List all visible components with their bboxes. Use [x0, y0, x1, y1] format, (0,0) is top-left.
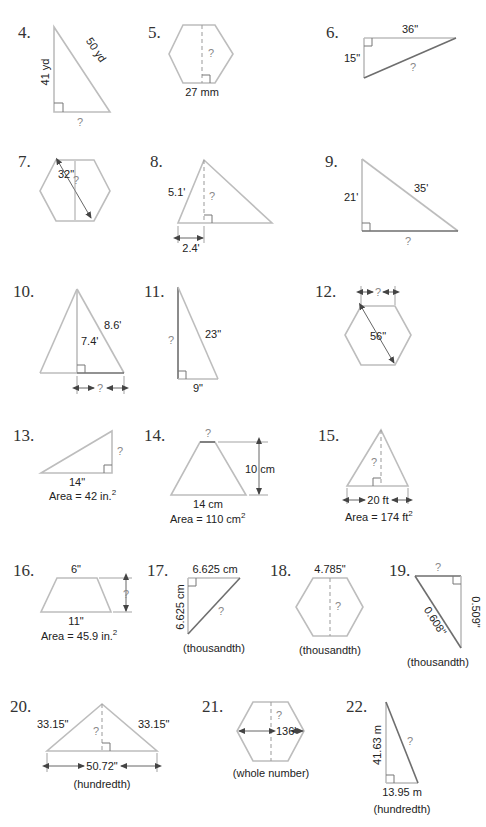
top-leg-label: 6.625 cm	[192, 563, 237, 575]
unknown-label: ?	[123, 588, 129, 600]
hypotenuse-label: 23"	[205, 328, 221, 340]
rounding-note: (hundredth)	[74, 778, 131, 790]
hypotenuse-label: 0.608"	[422, 604, 449, 637]
unknown-label: ?	[97, 382, 103, 394]
right-angle-mark	[453, 576, 461, 584]
height-label: 10 cm	[245, 463, 275, 475]
problem-number: 20.	[10, 697, 31, 716]
problem-5: 5. ? 27 mm	[148, 23, 233, 98]
base-label: 13.95 m	[382, 786, 422, 798]
unknown-label: ?	[208, 47, 214, 59]
problem-19: 19. ? 0.608" 0.509" (thousandth)	[389, 561, 482, 668]
rounding-note: (whole number)	[233, 767, 309, 779]
top-base-label: 6"	[71, 563, 81, 575]
area-label: Area = 42 in.2	[49, 488, 117, 502]
problem-number: 17.	[147, 561, 168, 580]
problem-10: 10. 8.6' 7.4' ?	[13, 282, 124, 394]
right-angle-mark	[362, 223, 370, 231]
leg-label: 0.509"	[470, 596, 482, 628]
hypotenuse	[415, 576, 461, 648]
rounding-note: (thousandth)	[407, 656, 469, 668]
right-angle-mark	[102, 743, 110, 751]
trapezoid	[171, 442, 246, 495]
problem-number: 16.	[13, 561, 34, 580]
side-label: 27 mm	[185, 86, 219, 98]
problem-15: 15. ? 20 ft Area = 174 ft2	[318, 426, 413, 523]
right-triangle	[41, 431, 112, 473]
unknown-label: ?	[93, 725, 99, 737]
unknown-label: ?	[371, 456, 377, 468]
problem-number: 7.	[18, 152, 31, 171]
problem-number: 10.	[13, 282, 34, 301]
problem-number: 19.	[389, 561, 410, 580]
problem-number: 8.	[150, 152, 163, 171]
leg-label: 9"	[193, 382, 203, 394]
leg-label: 41.63 m	[371, 725, 383, 765]
unknown-label: ?	[218, 605, 224, 617]
diagonal-label: 32"	[58, 168, 74, 180]
leg-label: 41 yd	[39, 59, 51, 86]
left-side-label: 33.15"	[37, 718, 69, 730]
unknown-label: ?	[335, 600, 341, 612]
base-segment-label: 2.4'	[182, 242, 199, 254]
base-label: 14 cm	[193, 498, 223, 510]
problem-16: 16. 6" ? 11" Area = 45.9 in.2	[13, 561, 132, 642]
problem-11: 11. ? 23" 9"	[144, 282, 221, 394]
problem-20: 20. 33.15" 33.15" ? 50.72" (hundredth)	[10, 697, 170, 790]
right-angle-mark	[364, 38, 372, 46]
unknown-label: ?	[276, 709, 282, 721]
height-label: 7.4'	[81, 335, 98, 347]
base-label: 50.72"	[86, 760, 118, 772]
side-leg-label: 6.625 cm	[174, 584, 186, 629]
problem-number: 15.	[318, 426, 339, 445]
problem-number: 22.	[346, 697, 367, 716]
right-angle-mark	[178, 371, 186, 379]
problem-13: 13. ? 14" Area = 42 in.2	[13, 426, 123, 502]
problem-9: 9. 21' 35' ?	[325, 152, 458, 247]
problem-4: 4. 41 yd 50 yd ?	[18, 23, 110, 128]
problem-number: 6.	[326, 23, 339, 42]
right-angle-mark	[188, 578, 196, 586]
hypotenuse-label: 35'	[414, 182, 428, 194]
right-angle-mark	[373, 478, 381, 486]
unknown-label: ?	[375, 286, 381, 298]
area-label: Area = 45.9 in.2	[41, 628, 118, 642]
base-label: 14"	[69, 476, 85, 488]
problem-number: 4.	[18, 23, 31, 42]
problem-17: 17. 6.625 cm 6.625 cm ? (thousandth)	[147, 561, 245, 654]
diagonal-label: 56"	[370, 330, 386, 342]
right-triangle	[54, 27, 110, 112]
unknown-label: ?	[410, 61, 416, 73]
problem-number: 18.	[270, 561, 291, 580]
problem-21: 21. ? 136' (whole number)	[202, 697, 309, 779]
hypotenuse-label: 50 yd	[84, 35, 109, 64]
trapezoid	[41, 578, 111, 612]
problem-number: 12.	[315, 282, 336, 301]
area-label: Area = 110 cm2	[170, 511, 246, 525]
side-label: 4.785"	[314, 563, 346, 575]
unknown-label: ?	[117, 445, 123, 457]
rounding-note: (thousandth)	[183, 642, 245, 654]
unknown-label: ?	[435, 561, 441, 573]
leg-label: 36"	[402, 23, 418, 35]
right-angle-mark	[202, 75, 210, 83]
side-label: 8.6'	[104, 319, 121, 331]
side-label: 5.1'	[168, 186, 185, 198]
hexagon	[169, 25, 233, 83]
hypotenuse	[386, 702, 418, 783]
problem-8: 8. 5.1' ? 2.4'	[150, 152, 272, 254]
problem-22: 22. 41.63 m ? 13.95 m (hundredth)	[346, 697, 430, 815]
right-angle-mark	[77, 365, 85, 373]
diagonal-label: 136'	[276, 725, 296, 737]
problem-number: 21.	[202, 697, 223, 716]
problem-number: 14.	[144, 426, 165, 445]
unknown-label: ?	[209, 190, 215, 202]
leg-label: 15"	[344, 52, 360, 64]
leg-label: 21'	[344, 191, 358, 203]
unknown-label: ?	[407, 735, 413, 747]
rounding-note: (thousandth)	[299, 644, 361, 656]
problem-14: 14. ? 10 cm 14 cm Area = 110 cm2	[144, 426, 275, 525]
right-angle-mark	[54, 103, 63, 112]
worksheet: 4. 41 yd 50 yd ? 5. ? 27 mm 6. 36" 15" ?…	[0, 0, 486, 827]
base-label: 20 ft	[367, 494, 388, 506]
